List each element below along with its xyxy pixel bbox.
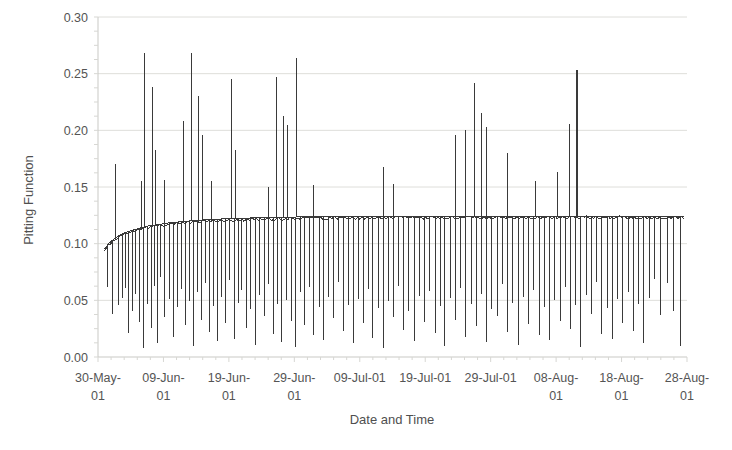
x-axis-title: Date and Time [350, 412, 435, 427]
y-axis-title: Pitting Function [21, 155, 36, 245]
svg-text:19-Jun-: 19-Jun- [208, 371, 250, 385]
svg-text:09-Jul-01: 09-Jul-01 [334, 371, 386, 385]
y-tick-label: 0.15 [64, 181, 88, 195]
y-tick-label: 0.05 [64, 294, 88, 308]
svg-text:28-Aug-: 28-Aug- [665, 371, 709, 385]
y-tick-label: 0.10 [64, 237, 88, 251]
svg-text:29-Jul-01: 29-Jul-01 [465, 371, 517, 385]
svg-text:01: 01 [287, 389, 301, 403]
y-tick-label: 0.00 [64, 351, 88, 365]
svg-text:09-Jun-: 09-Jun- [142, 371, 184, 385]
svg-text:08-Aug-: 08-Aug- [534, 371, 578, 385]
y-tick-label: 0.30 [64, 11, 88, 25]
svg-text:18-Aug-: 18-Aug- [599, 371, 643, 385]
svg-text:29-Jun-: 29-Jun- [273, 371, 315, 385]
x-tick-label: 09-Jul-01 [334, 371, 386, 385]
svg-text:01: 01 [680, 389, 694, 403]
svg-text:01: 01 [156, 389, 170, 403]
svg-text:01: 01 [222, 389, 236, 403]
y-tick-label: 0.25 [64, 67, 88, 81]
svg-text:19-Jul-01: 19-Jul-01 [399, 371, 451, 385]
pitting-function-chart: 0.000.050.100.150.200.250.30 30-May-0109… [0, 0, 732, 450]
chart-canvas: 0.000.050.100.150.200.250.30 30-May-0109… [0, 0, 732, 450]
x-tick-label: 19-Jul-01 [399, 371, 451, 385]
x-tick-label: 29-Jul-01 [465, 371, 517, 385]
svg-text:30-May-: 30-May- [75, 371, 121, 385]
svg-text:01: 01 [549, 389, 563, 403]
svg-text:01: 01 [615, 389, 629, 403]
svg-text:01: 01 [91, 389, 105, 403]
y-tick-label: 0.20 [64, 124, 88, 138]
